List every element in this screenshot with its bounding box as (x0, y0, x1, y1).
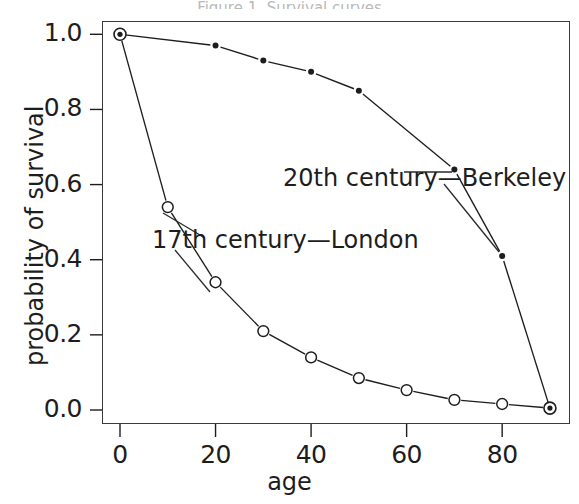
series-segment (122, 41, 166, 201)
figure-canvas: Figure 1. Survival curves 0.00.20.40.60.… (0, 0, 579, 504)
data-point-open (449, 394, 460, 405)
data-point-open (306, 352, 317, 363)
series-segment (125, 35, 210, 45)
data-point-open (497, 399, 508, 410)
data-point-filled (356, 88, 362, 94)
data-point-filled (308, 69, 314, 75)
x-tick-label: 20 (186, 440, 246, 469)
endpoint-center-dot (547, 406, 552, 411)
series-segment (413, 391, 447, 398)
series-segment (363, 94, 451, 166)
x-tick-label: 0 (90, 440, 150, 469)
y-tick-label: 1.0 (20, 18, 82, 47)
data-point-filled (499, 253, 505, 259)
x-tick-label: 40 (281, 440, 341, 469)
x-tick-label: 60 (377, 440, 437, 469)
y-tick-label: 0.0 (20, 394, 82, 423)
data-point-open (353, 373, 364, 384)
series-segment (220, 287, 258, 326)
x-tick-label: 80 (472, 440, 532, 469)
endpoint-center-dot (117, 32, 122, 37)
series-segment (365, 380, 400, 389)
series-segment (316, 74, 354, 89)
series-segment (509, 405, 543, 408)
data-point-filled (260, 58, 266, 64)
data-point-open (258, 326, 269, 337)
data-point-open (162, 202, 173, 213)
data-series-group (114, 28, 556, 414)
series-annotation-london: 17th century—London (152, 226, 419, 254)
data-point-open (210, 277, 221, 288)
x-axis-title: age (0, 468, 579, 496)
data-point-open (401, 385, 412, 396)
series-segment (221, 47, 259, 59)
series-annotation-berkeley: 20th century—Berkeley (283, 164, 566, 192)
data-point-filled (213, 43, 219, 49)
series-segment (317, 360, 352, 375)
series-segment (269, 334, 305, 354)
series-segment (461, 400, 495, 403)
series-segment (268, 62, 306, 71)
y-axis-title: probability of survival (21, 106, 49, 366)
series-segment (504, 261, 549, 403)
